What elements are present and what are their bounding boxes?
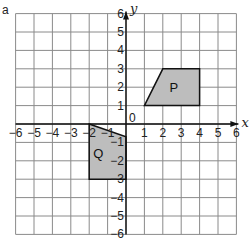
y-tick-label: −6 — [110, 227, 124, 241]
y-tick-label: 1 — [117, 99, 124, 113]
tick-labels: 0−6−5−4−3−2−1123456−6−5−4−3−2−1123456a — [2, 3, 240, 241]
corner-mark: a — [2, 3, 9, 17]
x-tick-label: 6 — [233, 126, 240, 140]
shape-label-p: P — [170, 80, 179, 95]
x-tick-label: 1 — [141, 126, 148, 140]
origin-label: 0 — [129, 111, 136, 125]
y-tick-label: 5 — [117, 25, 124, 39]
y-tick-label: −5 — [110, 209, 124, 223]
y-tick-label: −4 — [110, 191, 124, 205]
x-tick-label: −2 — [82, 126, 96, 140]
x-tick-label: 3 — [178, 126, 185, 140]
x-tick-label: −3 — [64, 126, 78, 140]
x-tick-label: −5 — [27, 126, 41, 140]
y-tick-label: 3 — [117, 62, 124, 76]
y-tick-label: 4 — [117, 43, 124, 57]
x-tick-label: 4 — [196, 126, 203, 140]
y-axis-label: y — [129, 1, 138, 16]
y-tick-label: 6 — [117, 7, 124, 21]
y-tick-label: −1 — [110, 135, 124, 149]
y-tick-label: −2 — [110, 154, 124, 168]
coordinate-grid: PQ xy 0−6−5−4−3−2−1123456−6−5−4−3−2−1123… — [0, 0, 249, 249]
y-tick-label: −3 — [110, 172, 124, 186]
y-tick-label: 2 — [117, 80, 124, 94]
x-tick-label: −6 — [9, 126, 23, 140]
x-tick-label: 2 — [159, 126, 166, 140]
shape-label-q: Q — [93, 146, 103, 161]
x-tick-label: 5 — [215, 126, 222, 140]
x-axis-label: x — [241, 115, 249, 130]
x-tick-label: −4 — [46, 126, 60, 140]
